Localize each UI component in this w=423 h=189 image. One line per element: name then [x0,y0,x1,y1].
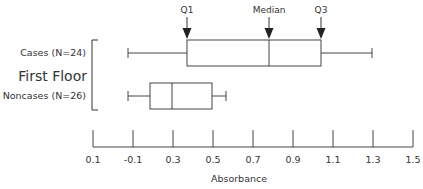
x-axis-title: Absorbance [211,173,267,184]
cases-boxplot [128,40,372,66]
tick-label: 1.1 [325,154,340,165]
tick-label: 1.3 [365,154,380,165]
q1-label: Q1 [181,5,194,15]
tick-label: 0.1 [85,154,100,165]
group-label: First Floor [18,68,87,84]
tick-label: 1.5 [405,154,420,165]
annotation-q1: Q1 [181,5,194,39]
annotation-median: Median [253,5,286,39]
tick-label: -0.1 [124,154,143,165]
noncases-label: Noncases (N=26) [3,90,86,101]
tick-label: 0.5 [205,154,220,165]
x-axis [93,130,413,147]
tick-label: 0.7 [245,154,260,165]
annotation-q3: Q3 [315,5,328,39]
arrow-down-icon [265,28,274,39]
median-label: Median [253,5,286,15]
group-bracket [92,40,98,110]
noncases-boxplot [128,83,226,109]
tick-label: 0.3 [165,154,180,165]
box-plot-chart: Q1 Median Q3 Cases (N=24) First Floor No… [0,0,423,189]
arrow-down-icon [183,28,192,39]
tick-label: 0.9 [285,154,300,165]
q3-label: Q3 [315,5,328,15]
x-tick-labels: 0.1 -0.1 0.3 0.5 0.7 0.9 1.1 1.3 1.5 [85,154,420,165]
arrow-down-icon [317,28,326,39]
cases-label: Cases (N=24) [20,47,86,58]
